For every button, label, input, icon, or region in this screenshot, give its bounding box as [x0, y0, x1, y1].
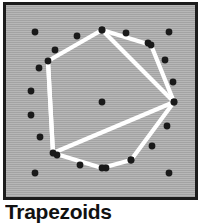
polygon-vertex-dot — [128, 157, 135, 164]
figure-panel — [3, 2, 198, 200]
ring-dot — [123, 30, 130, 37]
polygon-vertex-dot — [50, 150, 57, 157]
polygon-vertex-dot — [45, 58, 52, 65]
polygon-vertex-dot — [99, 165, 106, 172]
polygon-vertex-dot — [148, 42, 155, 49]
ring-dot — [170, 79, 177, 86]
ring-dot — [149, 143, 156, 150]
ring-dot — [77, 162, 84, 169]
polygon-vertex-dot — [99, 27, 106, 34]
figure-caption: Trapezoids — [5, 201, 196, 223]
figure-page: Trapezoids — [0, 0, 201, 223]
ring-dot — [74, 33, 81, 40]
ring-dot — [28, 88, 35, 95]
ring-dot — [164, 123, 171, 130]
ring-dot — [36, 65, 43, 72]
ring-dot — [28, 112, 35, 119]
ring-dot — [52, 47, 59, 54]
ring-dot — [162, 57, 169, 64]
corner-dot — [32, 170, 39, 177]
corner-dot — [166, 29, 173, 36]
polygon-vertex-dot — [171, 99, 178, 106]
corner-dot — [166, 170, 173, 177]
ring-dot — [37, 134, 44, 141]
center-dot — [99, 99, 106, 106]
trapezoids-diagram — [6, 5, 195, 197]
corner-dot — [32, 29, 39, 36]
polygon-edge — [48, 61, 53, 153]
